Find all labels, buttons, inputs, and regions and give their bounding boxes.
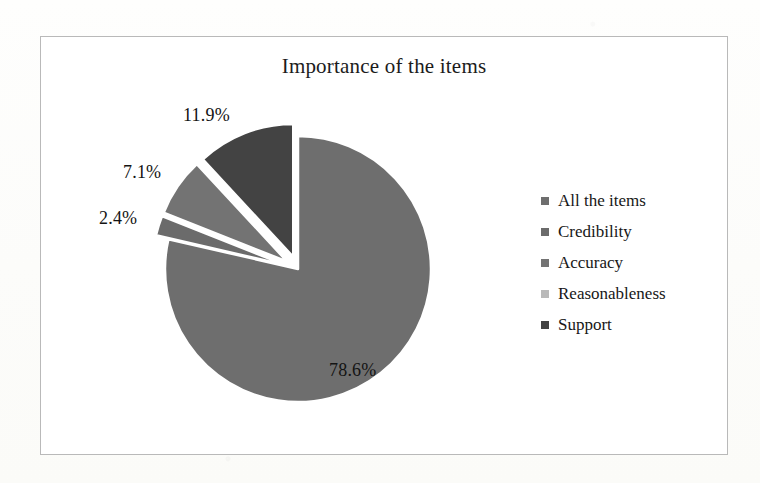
legend-item-all-the-items[interactable]: All the items	[541, 185, 716, 216]
legend-swatch-icon	[541, 228, 549, 236]
legend-item-label: All the items	[558, 192, 646, 209]
legend-item-credibility[interactable]: Credibility	[541, 216, 716, 247]
legend-item-label: Reasonableness	[558, 285, 666, 302]
legend-swatch-icon	[541, 321, 549, 329]
legend-item-label: Accuracy	[558, 254, 623, 271]
slice-label-all-the-items: 78.6%	[329, 360, 377, 381]
legend-swatch-icon	[541, 197, 549, 205]
legend-item-reasonableness[interactable]: Reasonableness	[541, 278, 716, 309]
pie-slice-group	[156, 124, 431, 402]
chart-legend: All the itemsCredibilityAccuracyReasonab…	[541, 185, 716, 340]
legend-item-label: Credibility	[558, 223, 632, 240]
legend-item-label: Support	[558, 316, 612, 333]
legend-item-support[interactable]: Support	[541, 309, 716, 340]
slice-label-support: 11.9%	[183, 105, 230, 126]
legend-item-accuracy[interactable]: Accuracy	[541, 247, 716, 278]
legend-swatch-icon	[541, 290, 549, 298]
legend-swatch-icon	[541, 259, 549, 267]
pie-chart-plot-area: 11.9% 7.1% 2.4% 78.6% All the itemsCredi…	[41, 37, 729, 456]
chart-frame: Importance of the items 11.9% 7.1% 2.4% …	[40, 36, 728, 455]
slice-label-accuracy: 7.1%	[123, 162, 161, 183]
slice-label-credibility: 2.4%	[99, 208, 137, 229]
